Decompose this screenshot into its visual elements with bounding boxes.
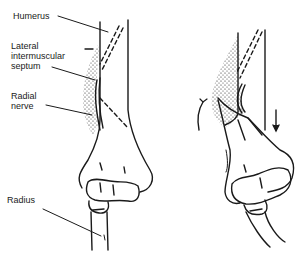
anatomy-diagram: Humerus Lateral intermuscular septum Rad… — [0, 0, 300, 260]
right-elbow-figure — [198, 30, 293, 247]
left-elbow-figure — [79, 20, 152, 250]
label-radial-nerve: Radial nerve — [11, 91, 37, 111]
label-radius: Radius — [7, 195, 35, 205]
label-lateral-intermuscular-septum: Lateral intermuscular septum — [11, 41, 65, 71]
diagram-drawing — [0, 0, 300, 260]
label-humerus: Humerus — [13, 11, 50, 21]
